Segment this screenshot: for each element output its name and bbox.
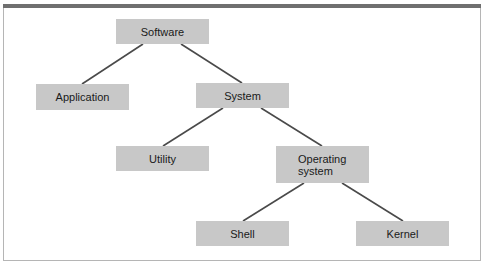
node-label: Shell <box>230 228 254 240</box>
node-software: Software <box>116 19 209 44</box>
node-label: System <box>224 90 261 102</box>
edge-operating-system-shell <box>243 183 304 221</box>
node-shell: Shell <box>196 221 289 246</box>
node-kernel: Kernel <box>356 221 449 246</box>
node-label: Kernel <box>387 228 419 240</box>
node-label-line2: system <box>298 165 333 177</box>
edge-system-operating-system <box>261 108 322 146</box>
node-application: Application <box>36 84 129 110</box>
node-label: Utility <box>149 153 176 165</box>
node-label-line1: Operating <box>298 153 346 165</box>
edge-software-system <box>181 44 242 83</box>
edge-operating-system-kernel <box>342 183 403 221</box>
node-label: Software <box>141 26 184 38</box>
node-system: System <box>196 83 289 108</box>
node-utility: Utility <box>116 146 209 171</box>
edge-system-utility <box>163 108 223 146</box>
node-label: Application <box>56 91 110 103</box>
node-operating-system: Operating system <box>276 146 369 183</box>
edge-software-application <box>82 44 143 84</box>
